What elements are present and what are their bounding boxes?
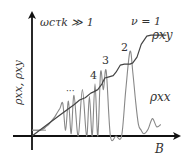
rho-xx-curve xyxy=(32,51,161,141)
plateau-label-4: 4 xyxy=(90,69,97,82)
plateau-label-nu1: ν = 1 xyxy=(131,15,161,28)
x-axis-label: B xyxy=(154,142,164,156)
plateau-label-ellipsis: ··· xyxy=(66,86,75,96)
rho-xx-label: ρxx xyxy=(149,90,171,104)
annotation-label: ωcτk ≫ 1 xyxy=(40,16,94,29)
quantum-hall-chart: ωcτk ≫ 1 ν = 1 2 3 4 ··· ρxy ρxx B ρxx, … xyxy=(0,0,189,162)
plateau-label-3: 3 xyxy=(102,54,109,67)
rho-xy-label: ρxy xyxy=(151,28,173,42)
y-axis-label: ρxx, ρxy xyxy=(12,59,25,106)
plateau-label-2: 2 xyxy=(121,41,128,54)
